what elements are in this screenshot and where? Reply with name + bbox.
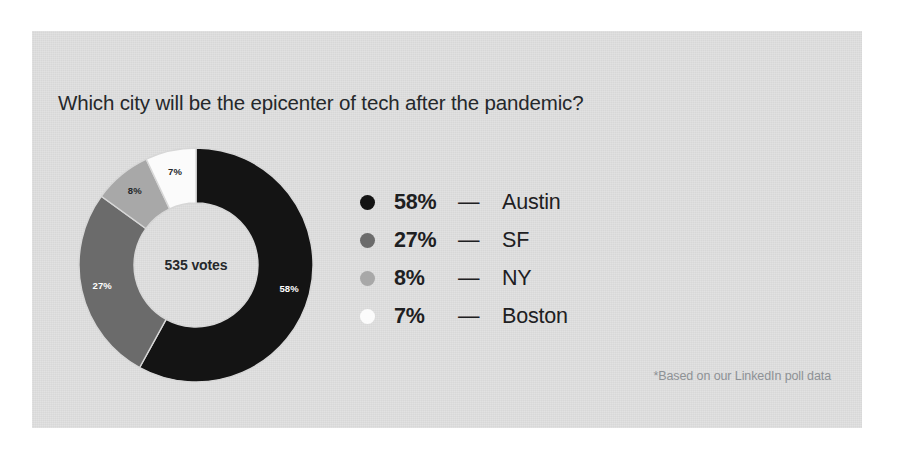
legend-label: Austin bbox=[502, 190, 561, 215]
legend-bullet-icon bbox=[360, 233, 375, 248]
legend-dash: — bbox=[458, 228, 502, 253]
legend-percent: 8% bbox=[394, 266, 458, 291]
legend-dash: — bbox=[458, 266, 502, 291]
legend-item[interactable]: 7%—Boston bbox=[360, 297, 568, 335]
legend-percent: 27% bbox=[394, 228, 458, 253]
legend-percent: 58% bbox=[394, 190, 458, 215]
legend-label: SF bbox=[502, 228, 529, 253]
legend-label: Boston bbox=[502, 304, 568, 329]
poll-card: Which city will be the epicenter of tech… bbox=[32, 31, 862, 428]
legend-item[interactable]: 27%—SF bbox=[360, 221, 568, 259]
footnote: *Based on our LinkedIn poll data bbox=[654, 369, 832, 383]
donut-slice-label: 27% bbox=[93, 280, 113, 291]
legend-item[interactable]: 8%—NY bbox=[360, 259, 568, 297]
donut-slice-group bbox=[79, 148, 313, 382]
donut-slice-label: 7% bbox=[168, 166, 182, 177]
chart-legend: 58%—Austin27%—SF8%—NY7%—Boston bbox=[360, 183, 568, 335]
legend-dash: — bbox=[458, 190, 502, 215]
legend-dash: — bbox=[458, 304, 502, 329]
legend-percent: 7% bbox=[394, 304, 458, 329]
legend-label: NY bbox=[502, 266, 531, 291]
legend-item[interactable]: 58%—Austin bbox=[360, 183, 568, 221]
page-title: Which city will be the epicenter of tech… bbox=[58, 90, 583, 116]
donut-slice-label: 58% bbox=[279, 283, 299, 294]
legend-bullet-icon bbox=[360, 271, 375, 286]
legend-bullet-icon bbox=[360, 195, 375, 210]
donut-slice-label: 8% bbox=[128, 185, 142, 196]
legend-bullet-icon bbox=[360, 309, 375, 324]
donut-chart: 58%27%8%7% 535 votes bbox=[78, 147, 314, 383]
donut-svg: 58%27%8%7% bbox=[78, 147, 314, 383]
